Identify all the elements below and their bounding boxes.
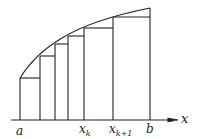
label-a: a	[16, 125, 23, 137]
x-axis-arrow-icon	[168, 118, 178, 121]
label-xk: xk	[79, 123, 91, 138]
label-xk-sub: k	[86, 129, 91, 138]
label-x-axis: x	[181, 112, 188, 125]
label-xk1-base: x	[109, 122, 116, 136]
diagram-graphic	[0, 0, 197, 139]
label-xk1: xk+1	[109, 123, 132, 138]
riemann-sum-diagram: a xk xk+1 b x	[0, 0, 197, 139]
label-b: b	[146, 123, 154, 135]
label-xk-base: x	[79, 122, 86, 136]
label-xk1-sub: k+1	[116, 129, 133, 138]
